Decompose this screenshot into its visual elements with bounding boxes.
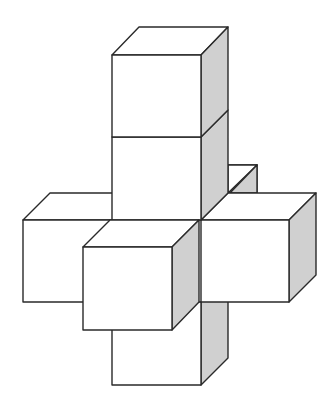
cube-structure-diagram <box>0 0 336 408</box>
top-cube <box>112 27 228 137</box>
front-cube <box>83 220 199 330</box>
right-cube <box>201 193 316 302</box>
